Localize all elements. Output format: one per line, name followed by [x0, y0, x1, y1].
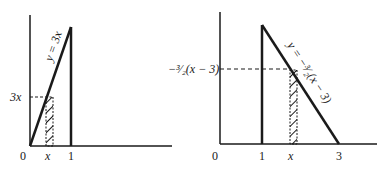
- left-dashed-label: 3x: [9, 90, 22, 104]
- right-tick-3: 3: [336, 149, 342, 163]
- left-tick-0: 0: [20, 149, 26, 163]
- right-dashed-label: −³⁄₂(x − 3): [168, 62, 219, 76]
- left-hatched-strip: [46, 97, 53, 146]
- right-figure: y = −³⁄₂(x − 3) −³⁄₂(x − 3) 0 1 x 3: [168, 12, 377, 163]
- diagram-canvas: y = 3x 3x 0 x 1 y = −³⁄₂(x − 3) −³⁄₂(x −…: [0, 0, 381, 171]
- left-tick-x: x: [44, 149, 51, 163]
- right-curve-line: [262, 25, 339, 144]
- right-tick-x: x: [287, 149, 294, 163]
- left-figure: y = 3x 3x 0 x 1: [9, 15, 172, 163]
- right-tick-1: 1: [259, 149, 265, 163]
- left-curve-label: y = 3x: [41, 29, 65, 64]
- right-tick-0: 0: [212, 149, 218, 163]
- right-hatched-strip: [290, 70, 297, 144]
- left-tick-1: 1: [68, 149, 74, 163]
